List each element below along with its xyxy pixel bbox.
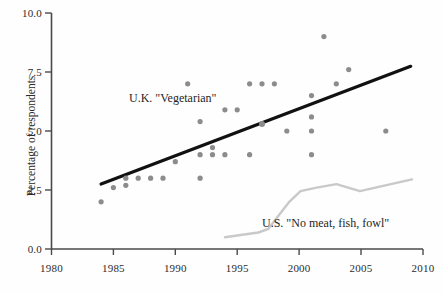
x-tick-label-1980: 1980 — [40, 262, 63, 274]
x-tick-label-2005: 2005 — [350, 262, 373, 274]
x-tick-label-2010: 2010 — [412, 262, 435, 274]
chart-plot-area — [0, 0, 443, 293]
trendline-uk — [101, 66, 411, 184]
x-tick-label-1985: 1985 — [102, 262, 125, 274]
y-axis-ticks — [45, 13, 52, 249]
x-tick-label-2000: 2000 — [288, 262, 311, 274]
y-tick-label-2-5: 2.5 — [4, 184, 42, 196]
x-tick-label-1995: 1995 — [226, 262, 249, 274]
y-tick-label-10: 10.0 — [4, 7, 42, 19]
series-annotation-uk: U.K. "Vegetarian" — [129, 91, 216, 106]
chart-figure: Percentage of respondents 10.0 7.5 5.0 2… — [0, 0, 443, 293]
series-points-uk — [99, 34, 389, 204]
series-annotation-us: U.S. "No meat, fish, fowl" — [262, 216, 389, 231]
x-tick-label-1990: 1990 — [164, 262, 187, 274]
y-tick-label-0: 0.0 — [4, 243, 42, 255]
y-tick-label-7-5: 7.5 — [4, 66, 42, 78]
y-tick-label-5: 5.0 — [4, 125, 42, 137]
x-axis-ticks — [52, 249, 424, 255]
